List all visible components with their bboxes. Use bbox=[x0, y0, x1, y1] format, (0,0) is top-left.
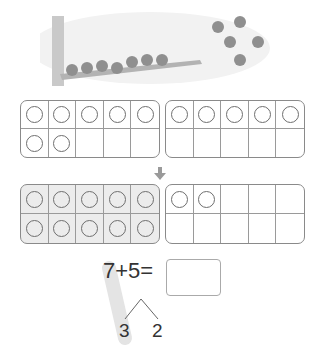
down-arrow-icon bbox=[154, 167, 166, 181]
counter bbox=[198, 106, 215, 123]
counter bbox=[171, 191, 188, 208]
counter bbox=[109, 220, 126, 237]
answer-box[interactable] bbox=[166, 259, 221, 296]
equation: 7+5= bbox=[103, 258, 153, 284]
counter bbox=[137, 191, 154, 208]
counter bbox=[26, 135, 43, 152]
birds-illustration bbox=[40, 8, 290, 88]
counter bbox=[26, 191, 43, 208]
counter bbox=[109, 106, 126, 123]
counter bbox=[53, 220, 70, 237]
counter bbox=[81, 106, 98, 123]
counter bbox=[53, 135, 70, 152]
counter bbox=[198, 191, 215, 208]
ten-frame-bottom-right bbox=[165, 184, 305, 244]
counter bbox=[53, 106, 70, 123]
ten-frame-bottom-left bbox=[20, 184, 160, 244]
counter bbox=[26, 220, 43, 237]
counter bbox=[109, 191, 126, 208]
counter bbox=[137, 220, 154, 237]
counter bbox=[81, 191, 98, 208]
counter bbox=[137, 106, 154, 123]
counter bbox=[26, 106, 43, 123]
counter bbox=[226, 106, 243, 123]
counter bbox=[282, 106, 299, 123]
ten-frame-top-right bbox=[165, 100, 305, 158]
counter bbox=[53, 191, 70, 208]
split-left-number: 3 bbox=[119, 320, 130, 342]
split-right-number: 2 bbox=[152, 320, 163, 342]
counter bbox=[171, 106, 188, 123]
counter bbox=[81, 220, 98, 237]
ten-frame-top-left bbox=[20, 100, 160, 158]
counter bbox=[254, 106, 271, 123]
